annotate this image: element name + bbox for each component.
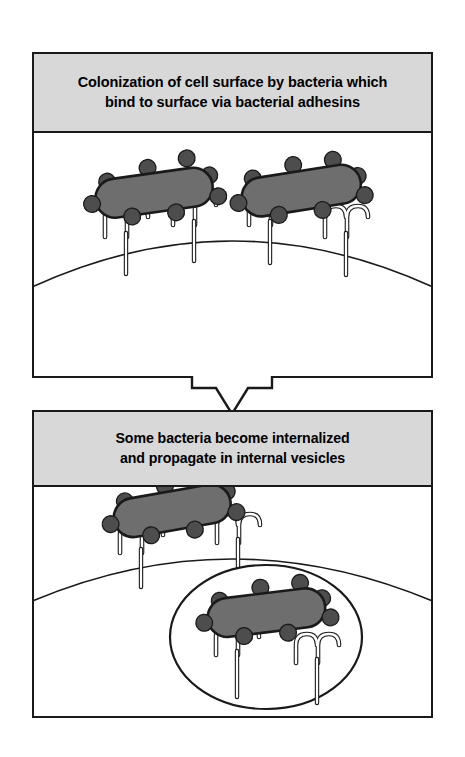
panel-internalization-header: Some bacteria become internalized and pr… [34,412,431,487]
panel-internalization-body [34,487,431,716]
cell-surface-colonization-scene [34,133,431,376]
adhesin-dot [177,149,196,168]
cell-surface-membrane [34,241,431,376]
panel-colonization-body [34,133,431,376]
diagram-figure: Colonization of cell surface by bacteria… [0,0,465,757]
bacterial-internalization-scene [34,487,431,716]
bacterium-1 [78,145,229,233]
panel-internalization-title: Some bacteria become internalized and pr… [109,429,355,467]
panel-colonization-header: Colonization of cell surface by bacteria… [34,54,431,133]
panel-colonization-title: Colonization of cell surface by bacteria… [72,73,394,112]
arrow-down-icon [192,376,272,414]
panel-internalization: Some bacteria become internalized and pr… [32,410,433,718]
panel-colonization: Colonization of cell surface by bacteria… [32,52,433,378]
